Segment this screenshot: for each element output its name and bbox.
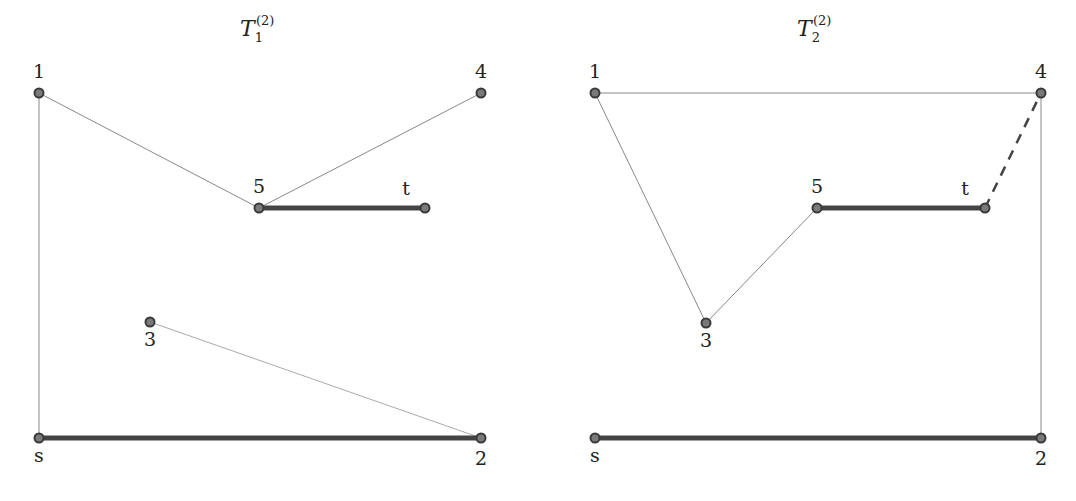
node-5	[255, 204, 264, 213]
node-4	[1037, 89, 1046, 98]
node-label-s: s	[34, 444, 44, 466]
node-label-t: t	[961, 177, 969, 199]
edge-layer	[595, 93, 1041, 438]
node-label-4: 4	[475, 60, 487, 82]
node-label-s: s	[590, 444, 600, 466]
node-4	[477, 89, 486, 98]
node-layer: 145t3s2	[33, 60, 487, 469]
node-2	[1037, 434, 1046, 443]
graph-canvas: T1(2) 145t3s2 T2(2) 145t3s2	[0, 0, 1076, 501]
edge-3-2	[150, 322, 481, 438]
diagram-t2: T2(2) 145t3s2	[589, 13, 1047, 469]
edge-layer	[39, 93, 481, 438]
node-t	[981, 204, 990, 213]
node-s	[35, 434, 44, 443]
node-label-5: 5	[253, 175, 265, 197]
diagram-title: T2(2)	[797, 13, 831, 45]
diagram-t1: T1(2) 145t3s2	[33, 13, 487, 469]
node-label-3: 3	[700, 329, 712, 351]
node-3	[146, 318, 155, 327]
edge-3-5	[706, 208, 817, 323]
node-1	[35, 89, 44, 98]
node-label-4: 4	[1035, 60, 1047, 82]
node-label-3: 3	[144, 328, 156, 350]
node-3	[702, 319, 711, 328]
node-t	[421, 204, 430, 213]
edge-t-4	[985, 93, 1041, 208]
edge-1-5	[39, 93, 259, 208]
node-1	[591, 89, 600, 98]
diagram-title: T1(2)	[240, 13, 274, 45]
node-layer: 145t3s2	[589, 60, 1047, 469]
edge-1-3	[595, 93, 706, 323]
node-5	[813, 204, 822, 213]
node-s	[591, 434, 600, 443]
node-2	[477, 434, 486, 443]
node-label-5: 5	[811, 175, 823, 197]
node-label-t: t	[402, 177, 410, 199]
node-label-2: 2	[1035, 447, 1047, 469]
edge-5-4	[259, 93, 481, 208]
node-label-1: 1	[589, 60, 601, 82]
node-label-2: 2	[475, 447, 487, 469]
node-label-1: 1	[33, 60, 45, 82]
